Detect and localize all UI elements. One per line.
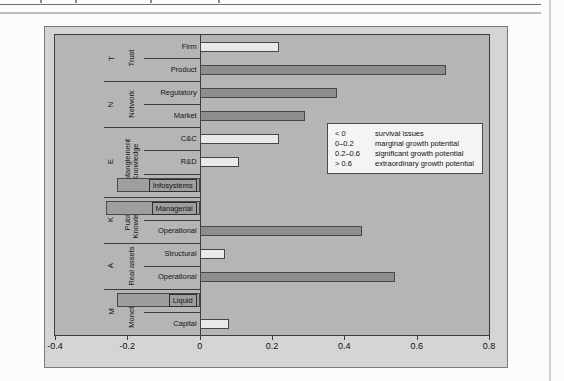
x-tick-label: 0.2 <box>266 341 279 351</box>
row-label: Liquid <box>169 294 197 307</box>
page-top-rule <box>0 4 541 5</box>
group-letter: A <box>102 243 120 289</box>
row-divider-line <box>144 266 200 267</box>
group-letter-text: E <box>107 159 116 164</box>
x-tick-label: -0.2 <box>120 341 136 351</box>
x-tick-label: 0.6 <box>410 341 423 351</box>
bar-market <box>200 111 305 121</box>
page-header-rule <box>0 12 541 14</box>
legend-label: survival issues <box>375 129 476 139</box>
legend-label: significant growth potential <box>375 149 476 159</box>
row-label: Operational <box>158 272 197 282</box>
x-tick-mark <box>272 336 273 340</box>
bar-operational <box>200 226 363 236</box>
row-label: Firm <box>182 42 197 52</box>
group-letter: T <box>102 35 120 81</box>
x-tick-mark <box>55 336 56 340</box>
x-tick-label: 0.8 <box>483 341 496 351</box>
bar-operational <box>200 272 395 282</box>
row-divider-line <box>144 58 200 59</box>
group-letter-text: M <box>106 309 115 316</box>
bar-structural <box>200 249 225 259</box>
legend-label: marginal growth potential <box>375 139 476 149</box>
row-label: Product <box>171 65 197 75</box>
page-crop-artifact <box>218 0 220 3</box>
x-tick-label: -0.4 <box>47 341 63 351</box>
x-tick-mark <box>127 336 128 340</box>
bar-chart-plot-area: < 0survival issues0–0.2marginal growth p… <box>54 34 490 336</box>
legend-item: 0.2–0.6significant growth potential <box>335 149 476 159</box>
bar-r-d <box>200 157 240 167</box>
row-divider-line <box>144 174 200 175</box>
group-name: Trust <box>119 35 145 81</box>
page-crop-artifact <box>75 0 77 3</box>
x-tick-mark <box>417 336 418 340</box>
bar-firm <box>200 42 280 52</box>
legend-range: > 0.6 <box>335 159 375 169</box>
row-label: Operational <box>158 226 197 236</box>
row-label: C&C <box>181 134 197 144</box>
group-letter: N <box>102 81 120 127</box>
group-name-text: Network <box>128 91 136 119</box>
group-name: Real assets <box>119 243 145 289</box>
bar-regulatory <box>200 88 337 98</box>
group-letter-text: T <box>106 56 115 61</box>
legend-item: > 0.6extraordinary growth potential <box>335 159 476 169</box>
row-label: Managerial <box>152 202 197 215</box>
bar-c-c <box>200 134 280 144</box>
row-divider-line <box>144 104 200 105</box>
chart-legend: < 0survival issues0–0.2marginal growth p… <box>327 123 483 174</box>
group-name-text: Real assets <box>128 246 136 285</box>
legend-range: 0–0.2 <box>335 139 375 149</box>
group-letter-text: K <box>107 217 116 222</box>
page-right-rule <box>549 0 551 381</box>
row-label: R&D <box>181 157 197 167</box>
legend-item: < 0survival issues <box>335 129 476 139</box>
row-label: Infosystems <box>149 179 197 192</box>
legend-item: 0–0.2marginal growth potential <box>335 139 476 149</box>
row-divider-line <box>144 312 200 313</box>
row-divider-line <box>144 150 200 151</box>
group-letter-text: N <box>107 101 116 107</box>
page-crop-artifact <box>40 0 42 3</box>
figure-panel: < 0survival issues0–0.2marginal growth p… <box>44 26 508 368</box>
row-label: Market <box>174 111 197 121</box>
bar-product <box>200 65 446 75</box>
x-tick-mark <box>489 336 490 340</box>
legend-label: extraordinary growth potential <box>375 159 476 169</box>
row-label: Regulatory <box>160 88 196 98</box>
row-label: Capital <box>173 319 196 329</box>
legend-range: 0.2–0.6 <box>335 149 375 159</box>
x-tick-mark <box>344 336 345 340</box>
zero-axis-line <box>200 35 201 335</box>
group-name-text: Trust <box>128 50 136 67</box>
legend-range: < 0 <box>335 129 375 139</box>
group-letter-text: A <box>107 263 116 268</box>
bar-capital <box>200 319 229 329</box>
row-label: Structural <box>165 249 197 259</box>
x-tick-label: 0 <box>197 341 202 351</box>
group-name: Network <box>119 81 145 127</box>
page-crop-artifact <box>150 0 152 3</box>
x-tick-label: 0.4 <box>338 341 351 351</box>
row-divider-line <box>144 220 200 221</box>
x-tick-mark <box>200 336 201 340</box>
